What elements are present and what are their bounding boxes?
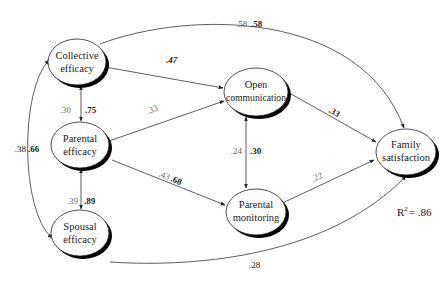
node-label: Open bbox=[245, 79, 268, 90]
coefficient-collective-parental-std: .30 bbox=[60, 105, 72, 115]
node-parental-efficacy: Parental efficacy bbox=[51, 122, 112, 171]
node-family-satisfaction: Family satisfaction bbox=[376, 129, 439, 178]
coefficient-open-family: .33 bbox=[327, 105, 342, 119]
edge-collective-to-open-communication bbox=[105, 67, 223, 88]
r-squared-superscript: 2 bbox=[404, 205, 408, 213]
coefficient-collective-spousal-std: .38 bbox=[15, 144, 27, 154]
coefficient-collective-family-std: .58 bbox=[236, 19, 248, 29]
coefficient-parental-open: .33 bbox=[145, 102, 159, 115]
node-spousal-efficacy: Spousal efficacy bbox=[51, 210, 112, 259]
node-label: Family bbox=[391, 139, 422, 150]
coefficient-collective-spousal: .66 bbox=[28, 144, 40, 154]
node-label: Parental bbox=[63, 133, 97, 144]
r-squared-value: = .86 bbox=[409, 206, 432, 218]
coefficient-spousal-family: .28 bbox=[249, 260, 261, 270]
node-open-communication: Open communication bbox=[224, 68, 291, 119]
coefficient-parental-spousal: .89 bbox=[84, 196, 96, 206]
coefficient-monitoring-family: .22 bbox=[310, 170, 324, 184]
node-label: communication bbox=[226, 92, 287, 103]
edge-parental-monitoring-to-family-satisfaction bbox=[274, 160, 374, 207]
edge-parental-efficacy-to-open-communication bbox=[109, 101, 224, 141]
node-label: monitoring bbox=[233, 212, 280, 223]
node-label: efficacy bbox=[60, 63, 94, 74]
coefficient-open-monitoring: .30 bbox=[250, 146, 262, 156]
coefficient-collective-parental: .75 bbox=[85, 105, 97, 115]
node-label: efficacy bbox=[63, 234, 97, 245]
svg-text:R2= .86: R2= .86 bbox=[397, 205, 432, 218]
path-diagram: Collective efficacy Parental efficacy Sp… bbox=[0, 0, 448, 292]
node-parental-monitoring: Parental monitoring bbox=[226, 189, 289, 238]
coefficient-collective-family: .58 bbox=[251, 19, 263, 29]
coefficient-collective-open: .47 bbox=[166, 55, 178, 65]
coefficient-open-monitoring-std: .24 bbox=[231, 146, 243, 156]
coefficient-parental-spousal-std: .39 bbox=[67, 196, 79, 206]
node-label: satisfaction bbox=[382, 152, 431, 163]
node-collective-efficacy: Collective efficacy bbox=[48, 39, 109, 88]
edge-open-communication-to-family-satisfaction bbox=[277, 86, 376, 142]
r-squared: R2= .86 bbox=[397, 205, 432, 218]
coefficient-parental-monitoring: .68 bbox=[169, 174, 184, 188]
node-label: Parental bbox=[239, 199, 273, 210]
node-label: Spousal bbox=[63, 221, 96, 232]
node-label: efficacy bbox=[63, 146, 97, 157]
node-label: Collective bbox=[55, 50, 98, 61]
